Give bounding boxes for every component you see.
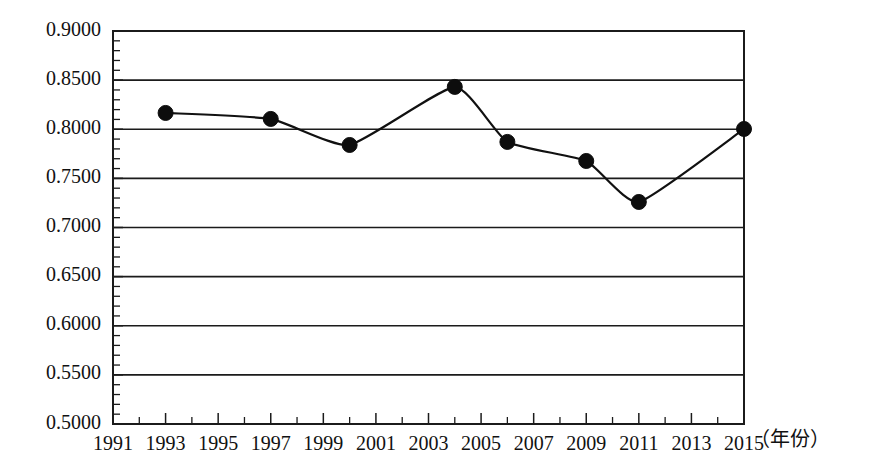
data-point-marker	[631, 194, 646, 209]
y-axis-tick-label: 0.6500	[46, 263, 101, 285]
y-axis-tick-label: 0.5500	[46, 361, 101, 383]
data-point-marker	[263, 111, 278, 126]
y-axis-tick-label: 0.7500	[46, 165, 101, 187]
x-axis-tick-label: 2013	[671, 432, 711, 454]
data-point-marker	[342, 137, 357, 152]
y-axis-tick-label: 0.9000	[46, 18, 101, 40]
x-axis-tick-label: 1999	[303, 432, 343, 454]
data-point-marker	[447, 79, 462, 94]
data-point-marker	[737, 121, 752, 136]
line-chart: 0.90000.85000.80000.75000.70000.65000.60…	[0, 0, 880, 469]
y-axis-tick-labels: 0.90000.85000.80000.75000.70000.65000.60…	[46, 18, 101, 433]
x-axis-tick-label: 2007	[514, 432, 554, 454]
x-axis-tick-label: 1993	[146, 432, 186, 454]
y-axis-tick-label: 0.7000	[46, 214, 101, 236]
data-point-marker	[158, 105, 173, 120]
y-axis-tick-label: 0.6000	[46, 312, 101, 334]
y-axis-tick-label: 0.5000	[46, 411, 101, 433]
y-axis-tick-label: 0.8000	[46, 116, 101, 138]
x-axis-tick-label: 1991	[93, 432, 133, 454]
data-point-marker	[500, 134, 515, 149]
chart-container: 0.90000.85000.80000.75000.70000.65000.60…	[0, 0, 880, 469]
x-axis-tick-label: 2001	[356, 432, 396, 454]
x-axis-tick-label: 2003	[409, 432, 449, 454]
x-axis-tick-label: 2009	[566, 432, 606, 454]
x-axis-tick-label: 2005	[461, 432, 501, 454]
x-axis-tick-label: 1995	[198, 432, 238, 454]
x-axis-tick-label: 2011	[619, 432, 658, 454]
chart-background	[0, 0, 880, 469]
y-axis-tick-label: 0.8500	[46, 67, 101, 89]
x-axis-tick-label: 1997	[251, 432, 291, 454]
x-axis-title: （年份）	[750, 428, 830, 450]
data-point-marker	[579, 153, 594, 168]
